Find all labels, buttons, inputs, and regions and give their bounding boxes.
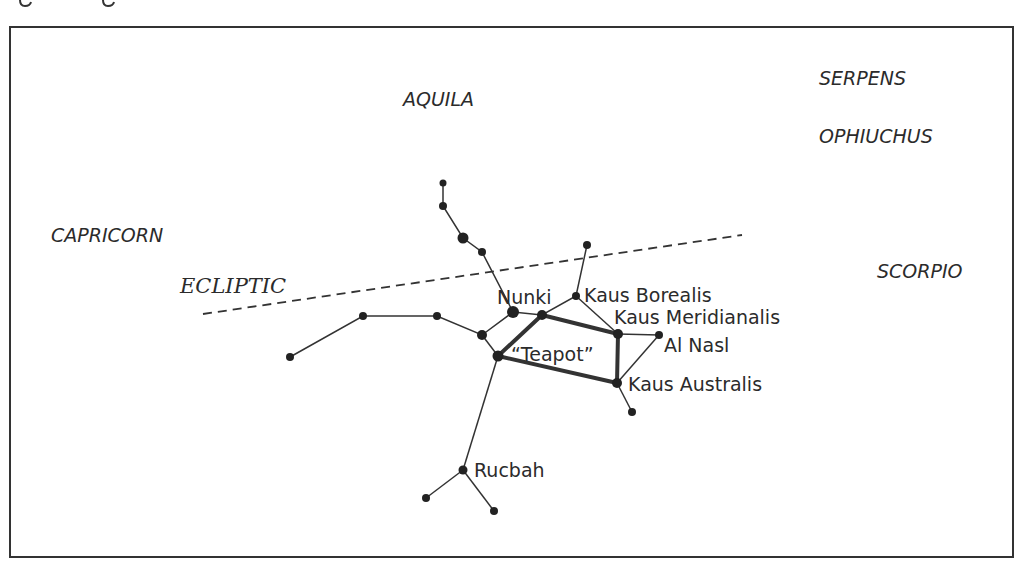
star-kaus-borealis: [572, 292, 580, 300]
star-dot: [477, 330, 487, 340]
label-serpens: SERPENS: [819, 67, 906, 89]
label-kaus-borealis: Kaus Borealis: [584, 284, 712, 306]
star-kaus-meridianalis: [613, 329, 623, 339]
star-dot: [433, 312, 441, 320]
sagittarius-star-chart: AQUILA SERPENS OPHIUCHUS CAPRICORN SCORP…: [0, 0, 1017, 580]
star-dot: [286, 353, 294, 361]
star-al-nasl: [655, 331, 663, 339]
star-dot: [490, 507, 498, 515]
star-dot: [537, 310, 547, 320]
label-aquila: AQUILA: [401, 88, 474, 110]
star-dot: [458, 233, 469, 244]
label-ophiuchus: OPHIUCHUS: [819, 125, 933, 147]
star-dot: [583, 241, 591, 249]
star-rucbah: [459, 466, 468, 475]
label-capricorn: CAPRICORN: [51, 224, 163, 246]
star-dot: [422, 494, 430, 502]
cropped-caption: [20, 0, 114, 6]
label-teapot: “Teapot”: [511, 343, 594, 365]
star-dot: [478, 248, 486, 256]
star-kaus-australis: [612, 378, 622, 388]
star-dot: [493, 351, 504, 362]
chart-canvas: AQUILA SERPENS OPHIUCHUS CAPRICORN SCORP…: [0, 0, 1017, 580]
label-al-nasl: Al Nasl: [664, 334, 729, 356]
star-dot: [359, 312, 367, 320]
label-ecliptic: ECLIPTIC: [179, 274, 286, 298]
label-scorpio: SCORPIO: [877, 260, 963, 282]
star-dot: [440, 180, 447, 187]
star-dot: [628, 408, 636, 416]
label-kaus-meridianalis: Kaus Meridianalis: [614, 306, 780, 328]
label-nunki: Nunki: [497, 286, 552, 308]
label-kaus-australis: Kaus Australis: [628, 373, 762, 395]
label-rucbah: Rucbah: [474, 459, 545, 481]
star-dot: [439, 202, 447, 210]
